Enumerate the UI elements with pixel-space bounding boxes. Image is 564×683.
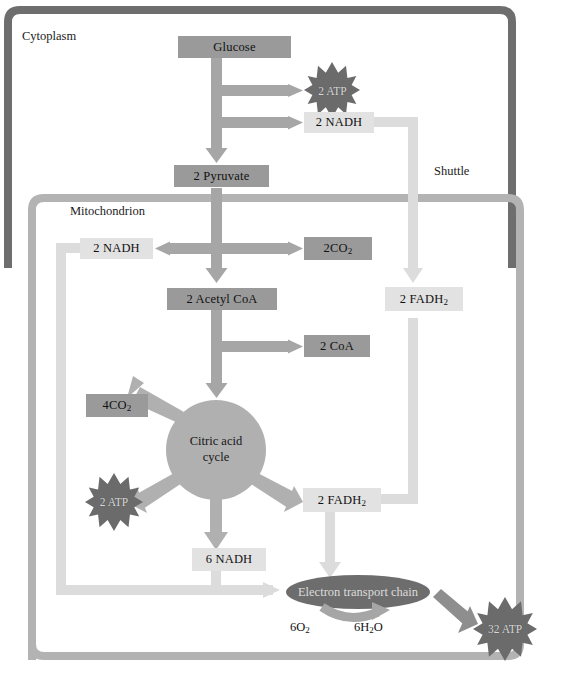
node-electron-transport-chain: Electron transport chain — [278, 585, 438, 600]
node-co2-2: 2CO2 — [304, 237, 372, 260]
node-co2-2-label: 2CO2 — [324, 241, 353, 256]
arrow-pyruvate-to-acetylcoa — [206, 188, 228, 283]
node-pyruvate: 2 Pyruvate — [174, 165, 269, 187]
arrow-pyruvate-to-co2 — [216, 242, 303, 256]
node-fadh2-upper: 2 FADH2 — [385, 287, 463, 311]
node-co2-4: 4CO2 — [86, 394, 148, 417]
arrow-acetylcoa-to-cycle — [206, 310, 228, 398]
node-coa-label: 2 CoA — [320, 339, 354, 354]
node-nadh-cytoplasm: 2 NADH — [304, 112, 374, 133]
node-nadh-6-label: 6 NADH — [206, 552, 253, 567]
cellular-respiration-svg — [0, 0, 564, 683]
diagram-canvas: Cytoplasm Mitochondrion Shuttle Glucose … — [0, 0, 564, 683]
node-nadh-mitochondrion-label: 2 NADH — [93, 241, 140, 256]
node-atp-glycolysis-label: 2 ATP — [304, 62, 361, 119]
node-nadh-cytoplasm-label: 2 NADH — [316, 115, 363, 130]
arrow-glycolysis-to-nadh — [216, 116, 303, 130]
node-atp-krebs: 2 ATP — [85, 473, 143, 531]
node-nadh-mitochondrion: 2 NADH — [80, 238, 153, 259]
node-fadh2-lower-label: 2 FADH2 — [318, 493, 366, 508]
node-citric-acid-cycle: Citric acid cycle — [156, 434, 276, 465]
node-o2: 6O2 — [290, 620, 310, 635]
node-atp-32: 32 ATP — [473, 597, 537, 661]
node-acetyl-coa: 2 Acetyl CoA — [167, 288, 277, 310]
node-electron-transport-chain-label: Electron transport chain — [298, 585, 418, 599]
path-fadh2-lower-to-etc — [319, 512, 341, 578]
node-fadh2-lower: 2 FADH2 — [303, 488, 381, 512]
node-co2-4-label: 4CO2 — [103, 398, 132, 413]
arrow-cycle-to-fadh2 — [248, 471, 303, 512]
node-acetyl-coa-label: 2 Acetyl CoA — [186, 292, 257, 307]
node-glucose: Glucose — [178, 36, 291, 58]
node-atp-glycolysis: 2 ATP — [304, 62, 361, 119]
arrow-etc-to-atp32 — [433, 589, 478, 633]
arrow-glycolysis-to-atp — [216, 84, 303, 97]
arrow-acetylcoa-to-coa — [216, 340, 303, 354]
node-fadh2-upper-label: 2 FADH2 — [400, 292, 448, 307]
citric-acid-cycle-line2: cycle — [156, 450, 276, 466]
arrow-glucose-to-pyruvate — [206, 58, 228, 163]
node-coa: 2 CoA — [304, 335, 370, 357]
node-h2o-label: 6H2O — [354, 620, 383, 634]
node-o2-label: 6O2 — [290, 620, 310, 634]
node-atp-32-label: 32 ATP — [473, 597, 537, 661]
node-h2o: 6H2O — [354, 620, 383, 635]
arrow-pyruvate-to-nadh — [155, 242, 218, 256]
node-pyruvate-label: 2 Pyruvate — [194, 169, 250, 184]
citric-acid-cycle-line1: Citric acid — [156, 434, 276, 450]
node-atp-krebs-label: 2 ATP — [85, 473, 143, 531]
node-nadh-6: 6 NADH — [192, 548, 266, 571]
node-glucose-label: Glucose — [213, 40, 255, 55]
